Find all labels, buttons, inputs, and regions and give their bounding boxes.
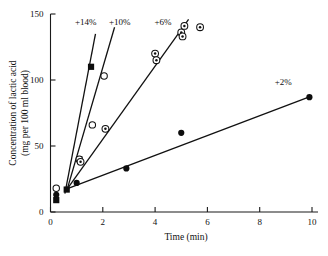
axes-group (51, 14, 319, 212)
data-point-plus14pct (64, 186, 70, 192)
x-tick-label: 4 (153, 217, 158, 227)
y-axis-ticks (51, 14, 56, 212)
data-point-plus2pct (53, 192, 59, 198)
fit-line-plus14pct (65, 34, 96, 194)
data-point-plus10pct (53, 185, 59, 191)
data-point-plus6pct-center (199, 26, 202, 29)
lactic-acid-time-chart: 0246810 050100150 +14%+10%+6%+2% Time (m… (0, 0, 328, 256)
y-tick-label: 50 (35, 141, 45, 151)
x-axis-ticks (51, 207, 313, 212)
series-label-plus2pct: +2% (275, 77, 293, 87)
series-label-plus14pct: +14% (75, 17, 97, 27)
data-point-plus14pct (88, 64, 94, 70)
data-point-plus6pct-center (79, 161, 82, 164)
data-point-plus10pct (89, 122, 95, 128)
x-axis-title: Time (min) (164, 232, 207, 243)
data-point-plus14pct (53, 197, 59, 203)
figure-container: 0246810 050100150 +14%+10%+6%+2% Time (m… (0, 0, 328, 256)
data-point-plus2pct (306, 94, 312, 100)
x-tick-label: 2 (101, 217, 106, 227)
fit-line-plus2pct (65, 96, 312, 190)
y-tick-label: 0 (39, 207, 44, 217)
data-point-plus6pct-center (181, 35, 184, 38)
data-point-plus2pct (74, 180, 80, 186)
series-fit-lines (65, 19, 312, 193)
x-tick-label: 0 (48, 217, 53, 227)
y-axis-tick-labels: 050100150 (30, 9, 44, 217)
x-tick-label: 8 (257, 217, 262, 227)
series-label-plus10pct: +10% (109, 17, 131, 27)
fit-line-plus10pct (67, 27, 115, 191)
series-label-plus6pct: +6% (154, 17, 172, 27)
fit-line-plus6pct (67, 19, 189, 189)
y-tick-label: 150 (30, 9, 44, 19)
data-point-plus6pct-center (104, 128, 107, 131)
x-tick-label: 10 (308, 217, 318, 227)
data-point-plus6pct-center (154, 52, 157, 55)
data-point-plus6pct-center (183, 25, 186, 28)
data-point-plus2pct (178, 130, 184, 136)
data-point-plus10pct (101, 73, 107, 79)
x-tick-label: 6 (205, 217, 210, 227)
x-axis-tick-labels: 0246810 (48, 217, 317, 227)
y-axis-title-line2: (mg per 100 ml blood) (20, 70, 31, 156)
data-point-plus2pct (123, 165, 129, 171)
y-tick-label: 100 (30, 75, 44, 85)
data-point-plus6pct-center (155, 59, 158, 62)
y-axis-title-line1: Concentration of lactic acid (8, 60, 18, 165)
